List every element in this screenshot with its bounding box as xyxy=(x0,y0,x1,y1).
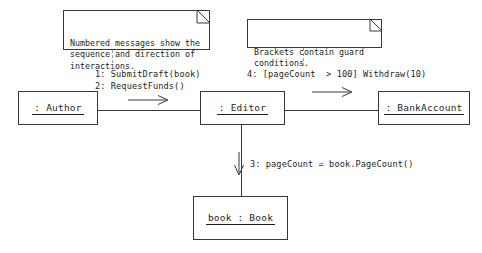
note-numbered-messages: Numbered messages show the sequence and … xyxy=(63,10,210,50)
message-arrow-author-to-editor xyxy=(128,94,174,106)
object-label-editor: : Editor xyxy=(217,102,268,115)
note-fold-icon xyxy=(64,11,211,51)
note-1-connector xyxy=(112,50,113,68)
object-label-bankaccount: : BankAccount xyxy=(384,102,465,115)
object-label-book: book : Book xyxy=(206,212,275,225)
message-arrow-editor-to-bankaccount xyxy=(312,86,358,98)
object-label-author: : Author xyxy=(32,102,83,115)
note-guard-conditions: Brackets contain guard conditions. xyxy=(247,19,382,48)
note-2-connector xyxy=(303,48,304,66)
link-editor-bankaccount xyxy=(285,110,378,111)
note-text: Brackets contain guard conditions. xyxy=(254,47,364,68)
object-box-author[interactable]: : Author xyxy=(18,91,98,125)
message-2-label: 2: RequestFunds() xyxy=(95,80,185,92)
diagram-canvas: Numbered messages show the sequence and … xyxy=(0,0,482,253)
object-box-editor[interactable]: : Editor xyxy=(200,91,285,125)
object-box-book[interactable]: book : Book xyxy=(193,196,288,240)
note-fold-icon xyxy=(248,20,383,49)
object-box-bankaccount[interactable]: : BankAccount xyxy=(378,91,470,125)
message-4-label: 4: [pageCount > 100] Withdraw(10) xyxy=(247,68,426,80)
message-3-label: 3: pageCount = book.PageCount() xyxy=(250,158,414,170)
message-arrow-editor-to-book xyxy=(232,152,246,178)
message-1-label: 1: SubmitDraft(book) xyxy=(95,68,200,80)
link-author-editor xyxy=(98,110,200,111)
